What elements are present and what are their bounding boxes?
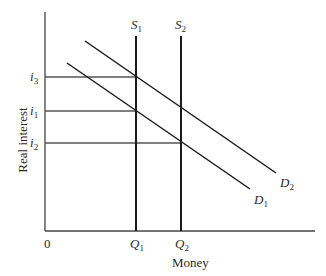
label-d1: D1 — [254, 193, 268, 209]
demand-curve-d1 — [67, 63, 250, 189]
label-i1: i1 — [30, 104, 38, 120]
origin-label: 0 — [44, 237, 51, 250]
money-market-diagram — [0, 0, 326, 276]
label-q2: Q2 — [175, 237, 189, 253]
label-i3: i3 — [30, 70, 38, 86]
label-i2: i2 — [30, 136, 38, 152]
label-q1: Q1 — [130, 237, 144, 253]
label-s1: S1 — [131, 18, 142, 34]
x-axis-label: Money — [172, 256, 209, 269]
label-s2: S2 — [175, 18, 186, 34]
label-d2: D2 — [280, 176, 294, 192]
y-axis-label: Real interest — [15, 95, 31, 185]
